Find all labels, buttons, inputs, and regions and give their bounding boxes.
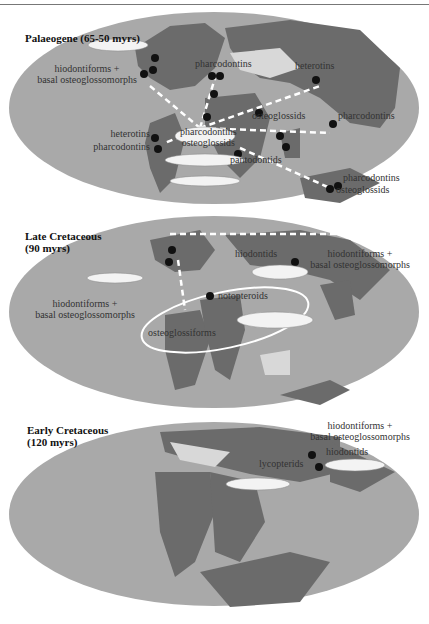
panel-title: Early Cretaceous (120 myrs) xyxy=(27,424,108,448)
panel-early-cretaceous: Early Cretaceous (120 myrs) hiodontiform… xyxy=(0,412,429,622)
map-label: osteoglossids xyxy=(252,110,305,121)
map-label: hiodontiforms + basal osteoglossomorphs xyxy=(30,298,140,320)
map-label: notopteroids xyxy=(218,290,268,301)
map-label: pharcodontins xyxy=(343,172,400,183)
map-label: hiodontiforms + basal osteoglossomorphs xyxy=(305,248,415,270)
map-label: heterotins xyxy=(295,60,334,71)
panel-late-cretaceous: Late Cretaceous (90 myrs) hiodontids hio… xyxy=(0,210,429,410)
map-label: hiodontids xyxy=(235,248,277,259)
map-label: heterotins xyxy=(100,128,150,139)
map-label: hiodontiforms + basal osteoglossomorphs xyxy=(32,63,142,85)
top-rule xyxy=(0,4,429,5)
panel-title: Palaeogene (65-50 myrs) xyxy=(25,32,140,44)
map-label: hiodontiforms + basal osteoglossomorphs xyxy=(305,420,415,442)
map-label: pantodontids xyxy=(230,154,282,165)
map-label: pharcodontins xyxy=(195,58,252,69)
map-label: pharcodontins xyxy=(90,141,150,152)
map-label: hiodontids xyxy=(326,446,368,457)
map-label: pharcodontins osteoglossids xyxy=(180,126,237,148)
panel-title: Late Cretaceous (90 myrs) xyxy=(25,230,101,254)
map-label: pharcodontins xyxy=(338,110,395,121)
map-label: osteoglossiforms xyxy=(148,327,216,338)
map-label: osteoglossids xyxy=(336,184,389,195)
panel-palaeogene: Palaeogene (65-50 myrs) hiodontiforms + … xyxy=(0,8,429,208)
map-label: lycopterids xyxy=(259,458,303,469)
